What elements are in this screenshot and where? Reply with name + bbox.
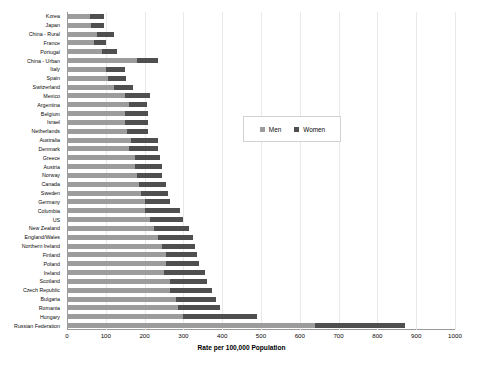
bar-row[interactable] [67,288,455,293]
bar-segment-men[interactable] [67,261,166,266]
bar-segment-women[interactable] [162,244,195,249]
legend-item-men[interactable]: Men [259,126,281,133]
bar-segment-women[interactable] [106,67,125,72]
bar-row[interactable] [67,182,455,187]
bar-segment-men[interactable] [67,32,97,37]
bar-segment-men[interactable] [67,76,108,81]
bar-row[interactable] [67,270,455,275]
bar-row[interactable] [67,93,455,98]
bar-segment-women[interactable] [127,129,148,134]
bar-segment-women[interactable] [135,164,162,169]
bar-segment-men[interactable] [67,93,125,98]
bar-segment-men[interactable] [67,270,164,275]
bar-row[interactable] [67,226,455,231]
bar-segment-women[interactable] [166,261,199,266]
bar-segment-men[interactable] [67,102,129,107]
bar-segment-women[interactable] [114,85,133,90]
bar-segment-men[interactable] [67,297,176,302]
bar-segment-women[interactable] [125,111,148,116]
bar-segment-women[interactable] [129,146,158,151]
bar-segment-men[interactable] [67,49,102,54]
bar-segment-women[interactable] [97,32,114,37]
bar-row[interactable] [67,102,455,107]
bar-segment-women[interactable] [154,226,189,231]
bar-segment-men[interactable] [67,138,131,143]
bar-segment-women[interactable] [108,76,127,81]
bar-segment-men[interactable] [67,173,137,178]
bar-segment-women[interactable] [125,93,150,98]
bar-row[interactable] [67,14,455,19]
bar-row[interactable] [67,305,455,310]
bar-segment-women[interactable] [135,155,160,160]
bar-segment-men[interactable] [67,252,166,257]
bar-segment-men[interactable] [67,235,158,240]
bar-segment-women[interactable] [178,305,221,310]
bar-row[interactable] [67,244,455,249]
bar-segment-men[interactable] [67,217,150,222]
bar-row[interactable] [67,314,455,319]
bar-segment-men[interactable] [67,182,139,187]
bar-segment-men[interactable] [67,14,90,19]
bar-row[interactable] [67,279,455,284]
bar-segment-men[interactable] [67,279,170,284]
bar-segment-women[interactable] [129,102,146,107]
bar-row[interactable] [67,217,455,222]
legend-item-women[interactable]: Women [293,126,325,133]
bar-segment-men[interactable] [67,314,183,319]
bar-segment-women[interactable] [139,182,166,187]
bar-row[interactable] [67,297,455,302]
bar-segment-men[interactable] [67,226,154,231]
bar-row[interactable] [67,85,455,90]
bar-segment-women[interactable] [141,191,168,196]
bar-segment-women[interactable] [125,120,148,125]
bar-segment-men[interactable] [67,120,125,125]
bar-segment-women[interactable] [170,288,213,293]
bar-segment-men[interactable] [67,323,315,328]
bar-segment-men[interactable] [67,305,178,310]
bar-segment-women[interactable] [183,314,257,319]
bar-segment-men[interactable] [67,129,127,134]
bar-segment-men[interactable] [67,146,129,151]
bar-row[interactable] [67,155,455,160]
bar-row[interactable] [67,32,455,37]
bar-segment-women[interactable] [91,23,104,28]
bar-segment-men[interactable] [67,199,145,204]
bar-segment-women[interactable] [150,217,183,222]
bar-segment-men[interactable] [67,85,114,90]
bar-row[interactable] [67,235,455,240]
bar-segment-men[interactable] [67,40,94,45]
bar-row[interactable] [67,67,455,72]
bar-segment-women[interactable] [145,208,180,213]
bar-segment-men[interactable] [67,244,162,249]
bar-row[interactable] [67,40,455,45]
bar-segment-women[interactable] [137,58,158,63]
bar-segment-men[interactable] [67,164,135,169]
bar-row[interactable] [67,58,455,63]
bar-segment-women[interactable] [176,297,217,302]
bar-row[interactable] [67,252,455,257]
bar-segment-women[interactable] [90,14,104,19]
bar-row[interactable] [67,261,455,266]
bar-segment-men[interactable] [67,155,135,160]
bar-segment-men[interactable] [67,288,170,293]
bar-row[interactable] [67,76,455,81]
bar-segment-men[interactable] [67,208,145,213]
bar-row[interactable] [67,173,455,178]
bar-segment-women[interactable] [94,40,106,45]
bar-row[interactable] [67,164,455,169]
bar-row[interactable] [67,208,455,213]
bar-segment-women[interactable] [164,270,205,275]
bar-row[interactable] [67,323,455,328]
bar-segment-men[interactable] [67,67,106,72]
bar-segment-women[interactable] [145,199,170,204]
bar-segment-men[interactable] [67,191,141,196]
bar-segment-women[interactable] [158,235,193,240]
bar-segment-women[interactable] [166,252,197,257]
bar-segment-men[interactable] [67,23,91,28]
bar-segment-men[interactable] [67,58,137,63]
bar-row[interactable] [67,49,455,54]
bar-row[interactable] [67,146,455,151]
bar-segment-men[interactable] [67,111,125,116]
bar-segment-women[interactable] [137,173,162,178]
bar-row[interactable] [67,23,455,28]
